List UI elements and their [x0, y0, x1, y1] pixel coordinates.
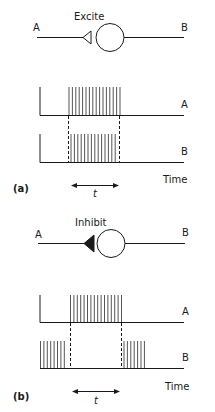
- panel-label-b: (b): [13, 391, 29, 402]
- trace-b-excite: B: [40, 134, 188, 163]
- inhibitory-synapse-schematic: Inhibit A B: [35, 217, 189, 258]
- panel-a: Excite A B A B Time (a): [13, 11, 188, 199]
- trace-a-label: A: [181, 99, 188, 110]
- neuron-b-circle: [96, 24, 124, 52]
- interval-label: t: [94, 395, 99, 406]
- panel-b: Inhibit A B A B Time (b) t: [13, 217, 189, 406]
- trace-a-inhibit: A: [40, 295, 189, 323]
- time-axis-label: Time: [164, 381, 189, 392]
- panel-label-a: (a): [13, 183, 29, 194]
- inhibit-label: Inhibit: [75, 217, 107, 228]
- neuron-b-circle: [97, 230, 125, 258]
- trace-b-label: B: [181, 146, 188, 157]
- excite-label: Excite: [74, 11, 104, 22]
- trace-b-inhibit: B: [40, 341, 189, 369]
- neuron-a-label: A: [35, 229, 42, 240]
- trace-a-excite: A: [40, 87, 188, 116]
- neuron-a-label: A: [33, 22, 40, 33]
- trace-a-label: A: [182, 306, 189, 317]
- neuron-synapse-diagram: Excite A B A B Time (a): [0, 0, 215, 412]
- excitatory-synapse-schematic: Excite A B: [33, 11, 188, 52]
- interval-label: t: [93, 188, 98, 199]
- trace-b-label: B: [182, 352, 189, 363]
- time-axis-label: Time: [162, 174, 187, 185]
- neuron-b-label: B: [182, 227, 189, 238]
- open-triangle-icon: [83, 31, 91, 44]
- interval-arrow: [72, 389, 120, 394]
- neuron-b-label: B: [181, 22, 188, 33]
- filled-triangle-icon: [84, 235, 94, 252]
